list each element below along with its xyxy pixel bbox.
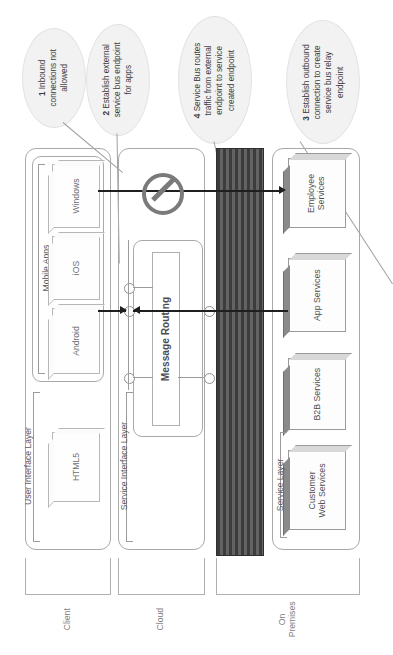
callout-1-text: 1 Inbound connections not allowed	[37, 49, 71, 106]
service-interface-layer-label-wrap: Service Interface Layer	[78, 442, 170, 490]
connector-bottom	[133, 377, 153, 378]
zone-bracket-onpremises	[216, 558, 360, 595]
no-entry-icon	[142, 173, 184, 215]
service-box-employee-label: Employee Services	[307, 173, 328, 212]
flow-arrow-inbound-blocked	[279, 186, 286, 194]
endpoint-circle-relay-lower	[204, 373, 215, 384]
flow-line-inbound-blocked	[98, 190, 280, 192]
flow-line-relay-outbound	[133, 310, 288, 312]
callout-bubble-3: 3 Establish outbound connection to creat…	[286, 20, 360, 144]
service-box-b2b-label: B2B Services	[312, 368, 322, 421]
client-box-ios: iOS	[52, 236, 100, 300]
service-box-app: App Services	[288, 258, 346, 332]
message-routing-box: Message Routing	[152, 252, 180, 426]
callout-bubble-1: 1 Inbound connections not allowed	[22, 28, 86, 128]
no-entry-slash	[151, 178, 175, 202]
zone-bracket-client	[25, 558, 111, 595]
connector-top	[133, 287, 153, 288]
client-box-android-label: Android	[71, 326, 81, 356]
endpoint-circle-bottom	[124, 373, 135, 384]
service-interface-layer-label: Service Interface Layer	[119, 422, 129, 510]
zone-label-client-wrap: Client	[37, 596, 97, 642]
flow-arrow-relay-outbound	[133, 306, 140, 314]
client-box-ios-label: iOS	[71, 261, 81, 275]
zone-label-cloud: Cloud	[155, 608, 165, 630]
client-box-windows: Windows	[52, 164, 100, 228]
bus-spine	[128, 240, 129, 390]
client-box-android: Android	[52, 308, 100, 374]
client-box-windows-label: Windows	[71, 179, 81, 214]
zone-label-onpremises: On Premises	[277, 601, 298, 637]
flow-arrow-app-to-bus	[120, 306, 127, 314]
ui-layer-label-wrap: User Interface Layer	[0, 442, 68, 490]
service-layer-label-wrap: Service Layer	[248, 462, 312, 508]
callout-bubble-4: 4 Service Bus routes traffic from extern…	[178, 16, 252, 144]
zone-bracket-cloud	[118, 558, 205, 595]
zone-label-onpremises-wrap: On Premises	[257, 594, 317, 644]
service-box-b2b: B2B Services	[288, 358, 346, 430]
callout-bubble-2: 2 Establish external service bus endpoin…	[86, 24, 150, 136]
service-layer-label: Service Layer	[275, 459, 285, 512]
callout-2-text: 2 Establish external service bus endpoin…	[101, 42, 135, 117]
callout-4-text: 4 Service Bus routes traffic from extern…	[193, 42, 238, 118]
ui-layer-label: User Interface Layer	[23, 427, 33, 505]
service-box-employee: Employee Services	[288, 158, 346, 228]
service-box-app-label: App Services	[312, 269, 322, 321]
zone-label-client: Client	[62, 608, 72, 630]
endpoint-circle-top	[124, 283, 135, 294]
zone-label-cloud-wrap: Cloud	[130, 596, 190, 642]
callout-3-text: 3 Establish outbound connection to creat…	[301, 44, 346, 120]
connector-relay-lower	[178, 377, 205, 378]
